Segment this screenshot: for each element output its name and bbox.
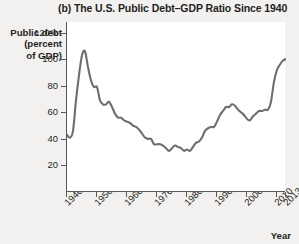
debt-gdp-line-chart	[67, 22, 286, 192]
y-tick-label: 80	[4, 80, 58, 91]
y-axis-title-line-2: (percent	[0, 38, 62, 49]
y-tick-label: 20	[4, 159, 58, 170]
y-tick-label: 60	[4, 106, 58, 117]
y-tick-label: 40	[4, 133, 58, 144]
y-tick-label: 120%	[4, 27, 58, 38]
x-axis-title: Year	[271, 230, 291, 241]
figure-panel-b: (b) The U.S. Public Debt–GDP Ratio Since…	[0, 0, 299, 244]
chart-title: (b) The U.S. Public Debt–GDP Ratio Since…	[58, 2, 299, 14]
plot-area	[66, 22, 285, 192]
y-tick-label: 100	[4, 53, 58, 64]
debt-gdp-series-line	[67, 50, 286, 150]
